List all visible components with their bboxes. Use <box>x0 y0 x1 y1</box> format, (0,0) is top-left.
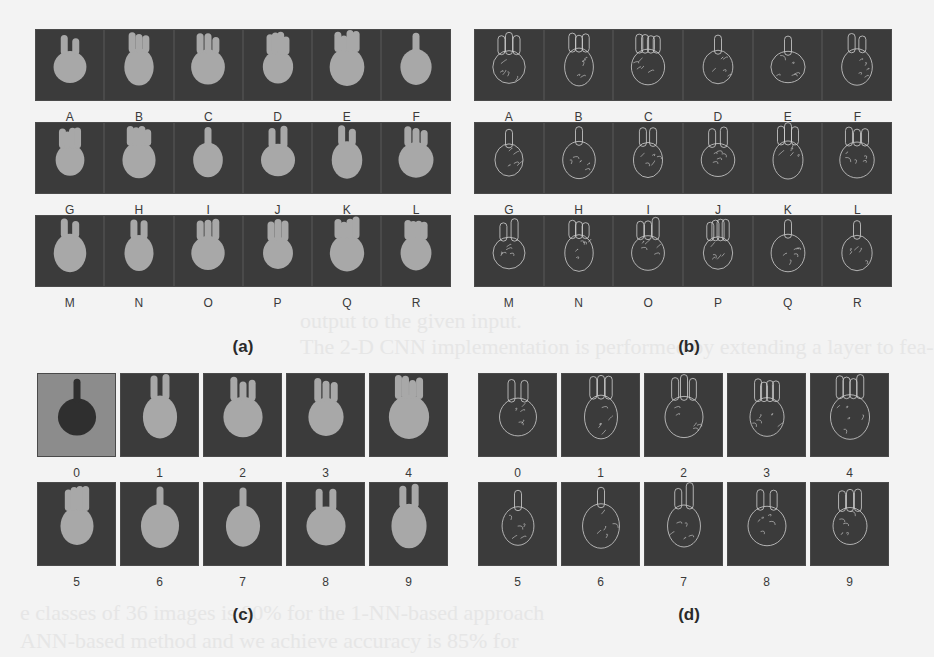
gesture-image-a-G <box>35 122 104 194</box>
hand-edge-icon <box>683 215 753 287</box>
gesture-image-b-K <box>753 122 823 194</box>
gesture-label: 0 <box>498 466 538 480</box>
gesture-image-a-C <box>174 29 243 101</box>
gesture-image-d-7 <box>644 482 723 566</box>
panel-a-row-2 <box>35 122 451 194</box>
gesture-label: 8 <box>747 575 787 589</box>
hand-edge-icon <box>810 482 889 566</box>
hand-gesture-icon <box>369 373 448 457</box>
gesture-label: 9 <box>389 575 429 589</box>
caption-b: (b) <box>664 337 714 357</box>
panel-d-row-1 <box>478 373 889 457</box>
gesture-image-b-R <box>822 215 892 287</box>
gesture-image-b-N <box>544 215 614 287</box>
hand-gesture-icon <box>35 215 104 287</box>
gesture-image-b-Q <box>753 215 823 287</box>
gesture-image-b-E <box>753 29 823 101</box>
hand-edge-icon <box>561 373 640 457</box>
gesture-image-b-D <box>683 29 753 101</box>
gesture-image-c-7 <box>203 482 282 566</box>
gesture-label: 5 <box>57 575 97 589</box>
panel-d-row-2 <box>478 482 889 566</box>
hand-gesture-icon <box>382 122 451 194</box>
hand-edge-icon <box>478 482 557 566</box>
hand-gesture-icon <box>104 122 173 194</box>
hand-gesture-icon <box>104 29 173 101</box>
gesture-label: N <box>559 296 599 310</box>
gesture-image-b-B <box>544 29 614 101</box>
hand-gesture-icon <box>382 215 451 287</box>
gesture-label: Q <box>768 296 808 310</box>
hand-edge-icon <box>683 122 753 194</box>
gesture-image-c-8 <box>286 482 365 566</box>
hand-gesture-icon <box>203 482 282 566</box>
hand-gesture-icon <box>35 29 104 101</box>
hand-gesture-icon <box>243 29 312 101</box>
hand-edge-icon <box>753 215 823 287</box>
gesture-image-d-5 <box>478 482 557 566</box>
hand-edge-icon <box>613 215 683 287</box>
gesture-image-d-2 <box>644 373 723 457</box>
caption-d: (d) <box>664 605 714 625</box>
gesture-image-b-F <box>822 29 892 101</box>
gesture-label: 2 <box>664 466 704 480</box>
gesture-label: 6 <box>140 575 180 589</box>
gesture-image-b-H <box>544 122 614 194</box>
gesture-image-a-M <box>35 215 104 287</box>
gesture-image-d-4 <box>810 373 889 457</box>
gesture-image-c-5 <box>37 482 116 566</box>
gesture-image-b-A <box>474 29 544 101</box>
gesture-label: M <box>50 296 90 310</box>
hand-gesture-icon <box>120 373 199 457</box>
hand-gesture-icon <box>37 373 116 457</box>
hand-gesture-icon <box>312 29 381 101</box>
hand-edge-icon <box>613 122 683 194</box>
gesture-image-a-R <box>381 215 450 287</box>
gesture-label: O <box>628 296 668 310</box>
gesture-image-b-G <box>474 122 544 194</box>
gesture-label: 4 <box>830 466 870 480</box>
gesture-label: 7 <box>223 575 263 589</box>
hand-edge-icon <box>753 29 823 101</box>
hand-gesture-icon <box>243 215 312 287</box>
gesture-image-d-8 <box>727 482 806 566</box>
gesture-image-a-L <box>381 122 450 194</box>
panel-a-row-3 <box>35 215 451 287</box>
gesture-image-a-A <box>35 29 104 101</box>
gesture-image-a-N <box>104 215 173 287</box>
gesture-image-c-9 <box>369 482 448 566</box>
gesture-label: 7 <box>664 575 704 589</box>
bleed-line: The 2-D CNN implementation is performed … <box>300 330 934 363</box>
gesture-image-b-J <box>683 122 753 194</box>
bleed-line: ANN-based method and we achieve accuracy… <box>20 624 518 657</box>
gesture-image-a-E <box>312 29 381 101</box>
gesture-label: 5 <box>498 575 538 589</box>
gesture-image-b-C <box>613 29 683 101</box>
hand-edge-icon <box>727 373 806 457</box>
hand-gesture-icon <box>35 122 104 194</box>
hand-edge-icon <box>613 29 683 101</box>
hand-edge-icon <box>474 122 544 194</box>
gesture-image-b-I <box>613 122 683 194</box>
caption-a: (a) <box>218 337 268 357</box>
gesture-image-b-P <box>683 215 753 287</box>
gesture-image-a-I <box>174 122 243 194</box>
panel-b-row-1 <box>474 29 892 101</box>
panel-b-row-3 <box>474 215 892 287</box>
gesture-label: Q <box>327 296 367 310</box>
hand-gesture-icon <box>369 482 448 566</box>
gesture-label: 3 <box>747 466 787 480</box>
gesture-image-d-0 <box>478 373 557 457</box>
hand-edge-icon <box>753 122 823 194</box>
gesture-label: 1 <box>140 466 180 480</box>
hand-edge-icon <box>478 373 557 457</box>
gesture-image-a-J <box>243 122 312 194</box>
gesture-label: R <box>837 296 877 310</box>
gesture-label: 8 <box>306 575 346 589</box>
gesture-image-a-K <box>312 122 381 194</box>
gesture-image-a-D <box>243 29 312 101</box>
hand-edge-icon <box>683 29 753 101</box>
gesture-image-c-3 <box>286 373 365 457</box>
gesture-image-b-L <box>822 122 892 194</box>
gesture-image-a-O <box>174 215 243 287</box>
